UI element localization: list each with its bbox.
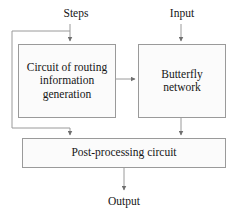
block-post-processing-circuit[interactable]: Post-processing circuit (22, 138, 226, 168)
input-label-steps: Steps (46, 8, 106, 20)
block-butterfly-network[interactable]: Butterfly network (138, 44, 226, 118)
block-label-post: Post-processing circuit (68, 146, 179, 159)
block-label-routing: Circuit of routing information generatio… (19, 61, 115, 101)
block-circuit-of-routing-information-generation[interactable]: Circuit of routing information generatio… (18, 44, 116, 118)
diagram-canvas: Steps Input Circuit of routing informati… (0, 0, 239, 216)
block-label-butterfly: Butterfly network (139, 68, 225, 95)
output-label-output: Output (94, 196, 154, 208)
input-label-input: Input (152, 8, 212, 20)
